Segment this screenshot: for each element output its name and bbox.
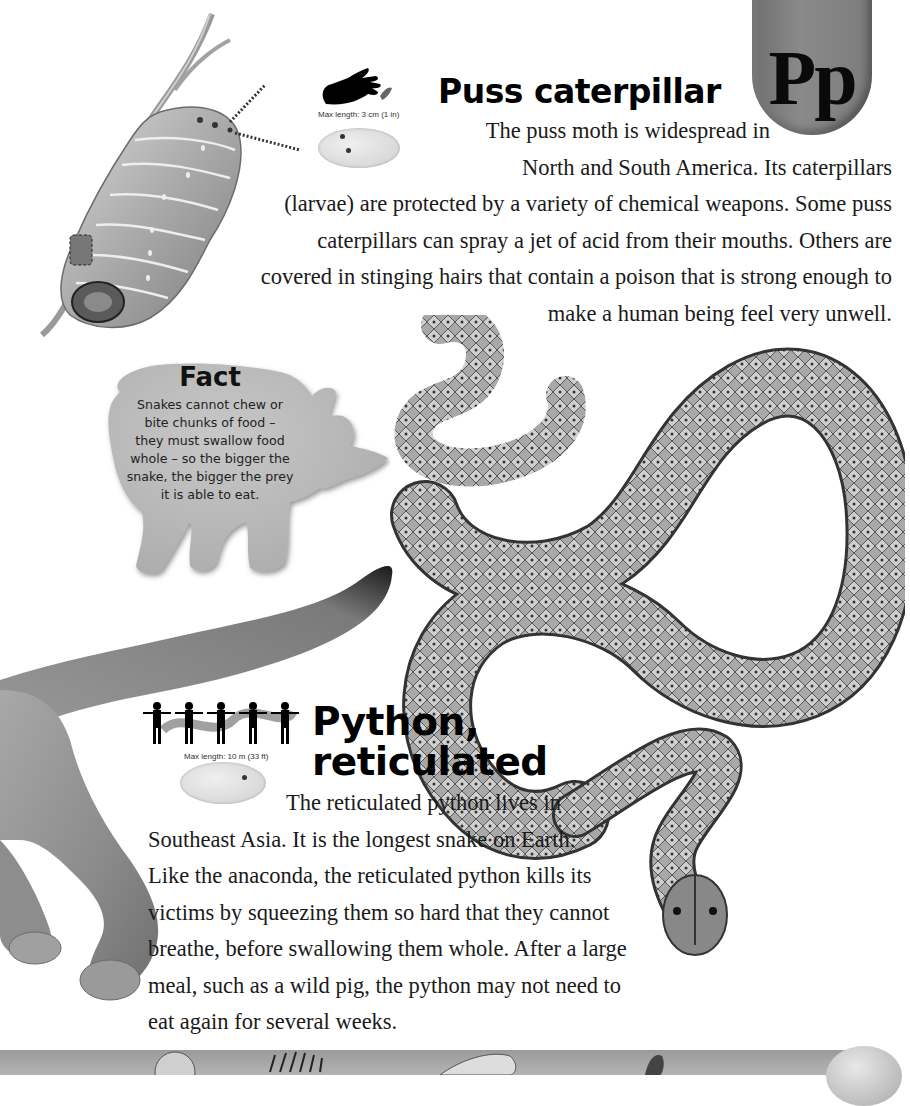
fact-line: bite chunks of food – [100, 414, 320, 432]
body-line: meal, such as a wild pig, the python may… [148, 968, 668, 1005]
body-line: The puss moth is widespread in [180, 113, 892, 150]
human-figures-icon [143, 700, 305, 746]
hand-icon [318, 66, 398, 108]
title-line: Python, [312, 702, 548, 742]
body-line: (larvae) are protected by a variety of c… [180, 186, 892, 223]
entry-title-python-reticulated: Python, reticulated [312, 702, 548, 782]
body-line: Like the anaconda, the reticulated pytho… [148, 858, 668, 895]
title-line: reticulated [312, 742, 548, 782]
python-max-length: Max length: 10 m (33 ft) [184, 752, 268, 761]
body-line: eat again for several weeks. [148, 1004, 668, 1041]
body-line: caterpillars can spray a jet of acid fro… [180, 223, 892, 260]
fact-line: Snakes cannot chew or [100, 396, 320, 414]
fact-text: Snakes cannot chew or bite chunks of foo… [100, 396, 320, 504]
fact-line: snake, the bigger the prey [100, 468, 320, 486]
body-line: covered in stinging hairs that contain a… [180, 259, 892, 296]
body-line: The reticulated python lives in [148, 785, 668, 822]
body-line: Southeast Asia. It is the longest snake … [148, 822, 668, 859]
bottom-decorative-strip [0, 1050, 860, 1075]
body-line: breathe, before swallowing them whole. A… [148, 931, 668, 968]
fact-line: whole – so the bigger the [100, 450, 320, 468]
body-line: victims by squeezing them so hard that t… [148, 895, 668, 932]
fact-title: Fact [100, 362, 320, 392]
strip-animal-thumbnails-icon [0, 1050, 860, 1075]
entry-body-puss-caterpillar: The puss moth is widespread in North and… [180, 113, 892, 332]
bottom-strip-end-cap [826, 1046, 902, 1106]
letter-tab-label: Pp [768, 39, 855, 117]
entry-body-python-reticulated: The reticulated python lives in Southeas… [148, 785, 668, 1041]
fact-line: it is able to eat. [100, 486, 320, 504]
entry-title-puss-caterpillar: Puss caterpillar [438, 72, 721, 111]
body-line: North and South America. Its caterpillar… [180, 150, 892, 187]
fact-line: they must swallow food [100, 432, 320, 450]
